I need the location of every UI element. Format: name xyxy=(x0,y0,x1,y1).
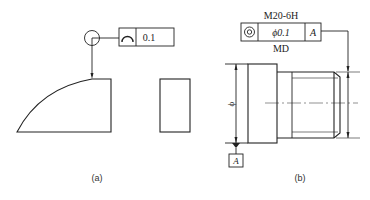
diameter-symbol: ϕ xyxy=(226,101,236,106)
datum-reference-b: A xyxy=(309,27,317,38)
tolerance-value-a: 0.1 xyxy=(143,32,156,43)
arrow-head-icon xyxy=(91,73,94,79)
caption-b: (b) xyxy=(295,173,306,183)
arrow-head-icon xyxy=(347,66,350,72)
technical-drawing: 0.1 M20-6H ϕ0.1 A MD ϕ A (a) (b) xyxy=(0,0,370,200)
profile-of-a-line-icon xyxy=(122,37,133,43)
concentricity-icon xyxy=(245,27,255,37)
tolerance-value-b: ϕ0.1 xyxy=(272,27,290,38)
thread-spec-label: M20-6H xyxy=(264,10,298,21)
caption-a: (a) xyxy=(92,173,103,183)
curved-part-outline xyxy=(17,79,111,132)
figure-a xyxy=(17,28,190,132)
modifier-label: MD xyxy=(273,43,289,54)
side-view-rect xyxy=(160,79,190,132)
datum-label: A xyxy=(232,156,239,166)
cylinder-body xyxy=(248,64,277,143)
figure-b xyxy=(225,23,360,167)
datum-triangle-icon xyxy=(232,143,240,148)
